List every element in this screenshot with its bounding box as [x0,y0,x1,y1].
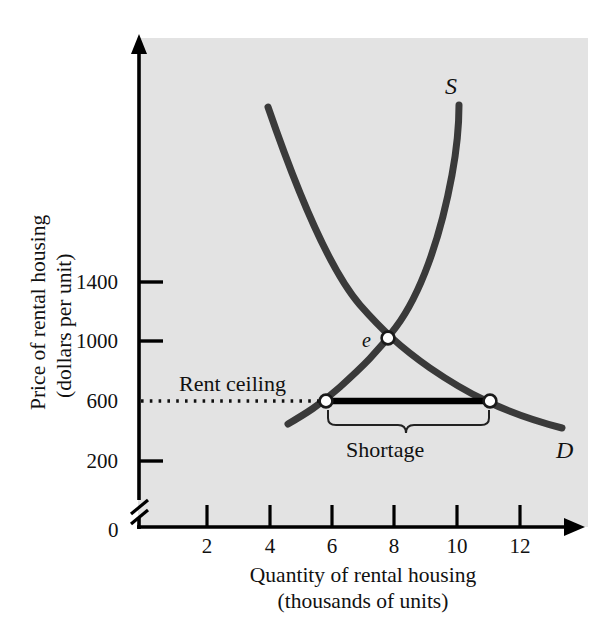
x-tick-label-10: 10 [437,534,477,559]
y-axis-title-sub: (dollars per unit) [52,254,77,399]
x-axis-title-line2: (thousands of units) [148,589,578,614]
y-axis-title-line2: (dollars per unit) [52,254,77,399]
x-tick-label-2: 2 [187,534,227,559]
equilibrium-point-marker [382,332,395,345]
supply-curve [288,105,459,424]
supply-curve-label: S [445,72,457,100]
x-tick-label-6: 6 [312,534,352,559]
equilibrium-point-label: e [362,329,371,353]
x-tick-label-8: 8 [374,534,414,559]
rent-ceiling-supply-demand-figure: 1400 1000 600 200 0 2 4 6 8 10 12 Price … [0,0,613,637]
x-tick-label-4: 4 [250,534,290,559]
y-axis-title: Price of rental housing [26,215,51,410]
x-axis-ticks [207,505,520,527]
y-axis-title-line1: Price of rental housing [26,215,51,410]
quantity-demanded-marker [484,395,497,408]
x-axis-title-line1: Quantity of rental housing [148,563,578,588]
demand-curve [268,107,562,428]
rent-ceiling-label: Rent ceiling [179,371,286,397]
quantity-supplied-marker [320,395,333,408]
shortage-label: Shortage [346,437,424,463]
y-axis-origin-label: 0 [108,518,119,543]
y-tick-label-200: 200 [48,449,118,474]
x-tick-label-12: 12 [500,534,540,559]
shortage-brace [328,410,489,433]
demand-curve-label: D [556,436,573,464]
y-axis-ticks [139,282,163,461]
